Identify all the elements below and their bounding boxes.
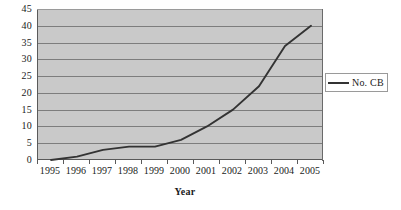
x-axis-tick	[245, 160, 246, 164]
x-axis-tick-label: 2005	[297, 165, 323, 177]
x-axis-tick	[37, 160, 38, 164]
x-axis-tick	[141, 160, 142, 164]
y-axis-tick-label: 25	[22, 71, 32, 81]
legend-label-no-cb: No. CB	[352, 77, 384, 88]
x-axis-title: Year	[0, 186, 370, 197]
y-axis-tick-label: 20	[22, 88, 32, 98]
x-axis-tick-label: 1998	[115, 165, 141, 177]
x-axis-tick-label: 2003	[245, 165, 271, 177]
x-axis-tick-label: 1995	[37, 165, 63, 177]
x-axis-tick	[271, 160, 272, 164]
legend-line-swatch	[328, 82, 349, 84]
legend: No. CB	[325, 73, 388, 92]
y-axis-tick-label: 35	[22, 38, 32, 48]
plot-right-border	[322, 9, 323, 161]
line-chart: 454035302520151050 199519961997199819992…	[0, 0, 401, 210]
x-axis-tick	[219, 160, 220, 164]
x-axis-tick-label: 2001	[193, 165, 219, 177]
y-axis-tick-label: 45	[22, 4, 32, 14]
plot-top-gridline	[37, 9, 323, 10]
x-axis-tick-label: 1997	[89, 165, 115, 177]
x-axis-tick	[167, 160, 168, 164]
x-axis-ticks	[37, 160, 323, 164]
y-axis-tick-label: 5	[27, 138, 32, 148]
y-axis-tick-label: 0	[27, 155, 32, 165]
x-axis-tick	[63, 160, 64, 164]
x-axis-tick	[323, 160, 324, 164]
x-axis-tick-label: 2000	[167, 165, 193, 177]
x-axis-tick	[89, 160, 90, 164]
x-axis-tick	[193, 160, 194, 164]
x-axis-tick	[115, 160, 116, 164]
x-axis-tick-label: 1996	[63, 165, 89, 177]
y-axis-tick-label: 10	[22, 121, 32, 131]
y-axis-tick-labels: 454035302520151050	[0, 4, 34, 164]
x-axis-tick	[297, 160, 298, 164]
x-axis-tick-label: 2002	[219, 165, 245, 177]
x-axis-tick-labels: 1995199619971998199920002001200220032004…	[0, 165, 401, 179]
plot-area	[37, 9, 323, 160]
x-axis-tick-label: 1999	[141, 165, 167, 177]
series-line-no-cb	[38, 9, 324, 160]
x-axis-tick-label: 2004	[271, 165, 297, 177]
y-axis-tick-label: 40	[22, 21, 32, 31]
y-axis-tick-label: 15	[22, 105, 32, 115]
y-axis-tick-label: 30	[22, 54, 32, 64]
